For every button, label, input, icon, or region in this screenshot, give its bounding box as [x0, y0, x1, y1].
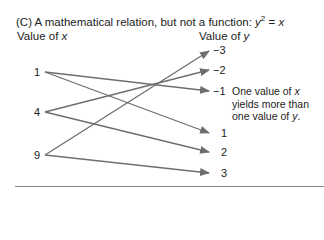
note-line2: yields more than: [232, 98, 322, 111]
note-line3: one value of: [232, 110, 292, 122]
arrow-9-to-3: [45, 155, 209, 173]
x-value-4: 4: [34, 106, 40, 118]
note-line1: One value of: [232, 85, 294, 97]
y-value-neg2: −2: [213, 64, 226, 76]
x-value-1: 1: [34, 66, 40, 78]
y-value-3: 3: [221, 167, 227, 179]
x-value-9: 9: [34, 149, 40, 161]
y-value-2: 2: [221, 146, 227, 158]
y-value-neg3: −3: [213, 44, 226, 56]
arrow-4-to-2: [45, 112, 209, 152]
bottom-divider: [15, 186, 324, 187]
note-var-x: x: [294, 85, 299, 97]
y-value-1: 1: [221, 127, 227, 139]
arrow-4-to-neg2: [45, 70, 209, 112]
y-value-neg1: −1: [213, 85, 226, 97]
arrow-9-to-neg3: [45, 51, 209, 155]
note-period: .: [297, 110, 300, 122]
annotation-note: One value of x yields more than one valu…: [232, 85, 322, 123]
